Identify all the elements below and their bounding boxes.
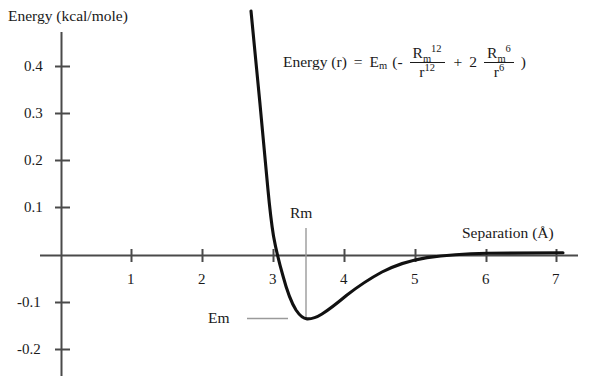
x-tick-label-2: 2 [198,272,206,287]
x-axis-title: Separation (Å) [462,225,554,241]
term1-den-superscript: 12 [424,62,435,73]
equation-plus-sign: + [454,54,463,70]
x-tick-label-4: 4 [340,272,348,287]
equation-amplitude: E [370,54,379,70]
term2-num-superscript: 6 [506,43,511,54]
equation-term1-numerator: Rm12 [410,45,445,62]
x-tick-label-7: 7 [552,272,560,287]
y-axis-title: Energy (kcal/mole) [8,8,128,24]
equation-amplitude-subscript: m [379,61,387,72]
equation-term2-fraction: Rm6 r6 [484,45,514,81]
term1-num-base: R [413,44,423,61]
equation-coefficient: 2 [469,54,477,70]
y-tick-label-0.4: 0.4 [24,59,43,74]
y-tick-label-0.2: 0.2 [24,153,43,168]
equation-close-paren: ) [521,54,526,70]
equation-term1-fraction: Rm12 r12 [410,45,445,81]
equation-term1-denominator: r12 [416,63,438,80]
potential-equation: Energy (r) = Em ( - Rm12 r12 + 2 Rm6 r6 … [283,44,526,80]
y-tick-label-neg-0.1: -0.1 [17,295,41,310]
x-tick-label-5: 5 [411,272,419,287]
term2-den-superscript: 6 [499,62,504,73]
equation-minus-sign: - [397,54,402,70]
x-tick-label-1: 1 [127,272,135,287]
equation-equals: = [354,54,363,70]
equation-lhs: Energy (r) [283,54,347,70]
term2-num-base: R [487,44,497,61]
x-tick-label-3: 3 [269,272,277,287]
y-tick-label-0.3: 0.3 [24,106,43,121]
term1-num-superscript: 12 [431,43,442,54]
lennard-jones-potential-chart: Energy (kcal/mole) Separation (Å) 0.4 0.… [0,0,594,382]
equation-term2-denominator: r6 [491,63,507,80]
equation-term2-numerator: Rm6 [484,45,514,62]
y-tick-label-0.1: 0.1 [24,200,43,215]
rm-annotation-label: Rm [290,205,312,221]
y-tick-label-neg-0.2: -0.2 [17,342,41,357]
x-tick-label-6: 6 [482,272,490,287]
em-annotation-label: Em [208,310,230,326]
